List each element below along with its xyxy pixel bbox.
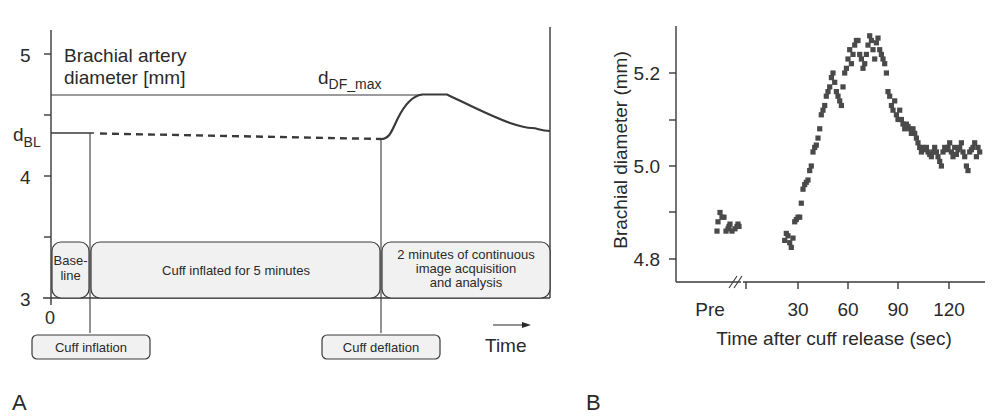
x-tick-label-0: 0	[45, 308, 55, 328]
data-point	[782, 238, 787, 243]
panel-a-xlabel: Time	[485, 335, 527, 356]
data-point	[824, 94, 829, 99]
data-point	[789, 245, 794, 250]
data-point	[850, 52, 855, 57]
y-tick-label-5: 5	[20, 45, 31, 66]
data-point	[799, 201, 804, 206]
data-point	[894, 112, 899, 117]
data-point	[887, 94, 892, 99]
data-point	[934, 149, 939, 154]
data-point	[975, 145, 980, 150]
data-point	[814, 143, 819, 148]
data-point	[859, 56, 864, 61]
data-point	[880, 56, 885, 61]
y-tick-label-5-0: 5.0	[634, 156, 660, 177]
data-point	[721, 215, 726, 220]
data-point	[947, 140, 952, 145]
data-point	[790, 236, 795, 241]
data-point	[972, 140, 977, 145]
x-tick-label-30: 30	[787, 299, 808, 320]
panel-label-a: A	[12, 390, 27, 415]
data-point	[829, 75, 834, 80]
data-point	[877, 47, 882, 52]
panel-b-ylabel: Brachial diameter (mm)	[610, 51, 631, 248]
data-point	[964, 163, 969, 168]
data-point	[949, 149, 954, 154]
data-point	[862, 61, 867, 66]
data-point	[954, 152, 959, 157]
data-point	[817, 126, 822, 131]
cuff-deflation-label: Cuff deflation	[343, 340, 419, 355]
data-point	[974, 154, 979, 159]
data-point	[872, 56, 877, 61]
d-df-max-label: dDF_max	[318, 67, 381, 92]
x-tick-label-60: 60	[837, 299, 858, 320]
data-point	[864, 52, 869, 57]
data-point	[842, 70, 847, 75]
data-point	[932, 145, 937, 150]
y-tick-label-4: 4	[20, 167, 31, 188]
data-point	[915, 140, 920, 145]
phase-baseline-line2: line	[60, 268, 80, 283]
data-point	[820, 108, 825, 113]
figure-canvas: 5 4 3 0 Brachial artery diameter [mm] dB…	[0, 0, 995, 418]
cuff-inflation-label: Cuff inflation	[55, 340, 127, 355]
panel-a-ylabel-line2: diameter [mm]	[64, 67, 185, 88]
phase-baseline-line1: Base-	[54, 253, 88, 268]
data-point	[939, 163, 944, 168]
y-tick-label-5-2: 5.2	[634, 63, 660, 84]
scatter-points	[714, 33, 982, 250]
data-point	[884, 70, 889, 75]
data-point	[857, 52, 862, 57]
data-point	[810, 149, 815, 154]
panel-b-xlabel: Time after cuff release (sec)	[716, 328, 951, 349]
data-point	[912, 131, 917, 136]
panel-label-b: B	[586, 390, 601, 415]
data-point	[875, 36, 880, 41]
data-point	[787, 240, 792, 245]
data-point	[899, 117, 904, 122]
dilation-curve	[381, 95, 550, 140]
data-point	[897, 108, 902, 113]
data-point	[914, 136, 919, 141]
data-point	[736, 224, 741, 229]
data-point	[960, 149, 965, 154]
data-point	[879, 52, 884, 57]
data-point	[827, 84, 832, 89]
data-point	[830, 70, 835, 75]
data-point	[845, 56, 850, 61]
data-point	[890, 108, 895, 113]
data-point	[835, 94, 840, 99]
panel-a: 5 4 3 0 Brachial artery diameter [mm] dB…	[12, 27, 550, 415]
data-point	[957, 145, 962, 150]
data-point	[929, 154, 934, 159]
data-point	[809, 163, 814, 168]
time-arrow-icon	[522, 322, 531, 328]
x-tick-label-pre: Pre	[695, 299, 725, 320]
phase-acquisition-line2: image acquisition	[416, 261, 516, 276]
inflation-dashed-line	[100, 134, 381, 140]
d-bl-label: dBL	[13, 124, 41, 150]
data-point	[714, 229, 719, 234]
data-point	[839, 103, 844, 108]
panel-a-ylabel-line1: Brachial artery	[64, 45, 187, 66]
data-point	[945, 145, 950, 150]
data-point	[715, 219, 720, 224]
data-point	[849, 61, 854, 66]
y-tick-label-3: 3	[20, 289, 31, 310]
data-point	[865, 43, 870, 48]
data-point	[874, 40, 879, 45]
data-point	[825, 89, 830, 94]
data-point	[870, 47, 875, 52]
data-point	[832, 80, 837, 85]
data-point	[867, 33, 872, 38]
phase-inflated-label: Cuff inflated for 5 minutes	[162, 263, 310, 278]
data-point	[840, 84, 845, 89]
data-point	[892, 98, 897, 103]
data-point	[805, 177, 810, 182]
data-point	[869, 38, 874, 43]
data-point	[924, 145, 929, 150]
data-point	[855, 38, 860, 43]
panel-b: 5.2 5.0 4.8 Pre 30 60 90 120 Time after …	[586, 26, 985, 415]
data-point	[889, 103, 894, 108]
